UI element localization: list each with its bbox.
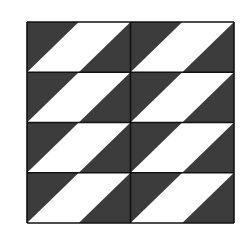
diagonal-stripe-tile-pattern	[0, 0, 246, 228]
